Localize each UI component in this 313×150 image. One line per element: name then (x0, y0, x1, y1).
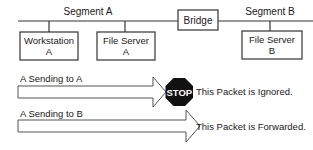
scenario-2-result: This Packet is Forwarded. (196, 121, 306, 132)
stop-sign-text: STOP (166, 87, 192, 98)
workstation-a-line1: Workstation (24, 35, 74, 46)
file-server-b-line1: File Server (249, 34, 295, 45)
bridge-label: Bridge (184, 15, 213, 26)
file-server-a-line2: A (123, 46, 130, 57)
scenario-1-result: This Packet is Ignored. (196, 86, 293, 97)
segment-a-label: Segment A (64, 6, 113, 17)
file-server-b-line2: B (269, 45, 275, 56)
file-server-a-line1: File Server (103, 35, 149, 46)
workstation-a-node: Workstation A (20, 21, 78, 60)
bridge-node: Bridge (178, 10, 218, 30)
file-server-a-node: File Server A (97, 21, 155, 60)
bridge-diagram: Segment A Segment B Bridge Workstation A… (0, 0, 313, 150)
workstation-a-line2: A (46, 46, 53, 57)
file-server-b-node: File Server B (242, 21, 302, 59)
segment-b-label: Segment B (245, 6, 295, 17)
scenario-1-label: A Sending to A (20, 73, 83, 84)
stop-sign-icon: STOP (166, 78, 194, 106)
scenario-2-label: A Sending to B (20, 108, 83, 119)
